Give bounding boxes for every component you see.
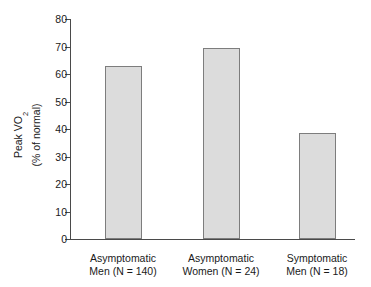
category-label-line1: Asymptomatic — [182, 252, 259, 265]
y-axis-label: Peak VO2 (% of normal) — [14, 70, 40, 200]
y-axis-label-line1: Peak VO2 — [12, 112, 29, 158]
y-tick-label: 10 — [55, 206, 67, 217]
category-label-line1: Symptomatic — [286, 252, 348, 265]
bar — [299, 133, 336, 239]
y-axis-label-subscript: 2 — [21, 112, 30, 116]
y-tick-label: 20 — [55, 179, 67, 190]
x-axis-line — [70, 239, 355, 240]
plot-area: 01020304050607080 — [70, 19, 355, 239]
bar-chart-figure: Peak VO2 (% of normal) 01020304050607080… — [0, 0, 371, 287]
bar — [203, 48, 240, 239]
x-axis-category-label: SymptomaticMen (N = 18) — [286, 252, 348, 278]
y-tick-label: 50 — [55, 96, 67, 107]
category-label-line2: Men (N = 18) — [286, 265, 348, 278]
y-tick-label: 60 — [55, 69, 67, 80]
category-label-line2: Women (N = 24) — [182, 265, 259, 278]
x-axis-category-label: AsymptomaticMen (N = 140) — [89, 252, 156, 278]
bar — [105, 66, 142, 239]
y-tick-label: 80 — [55, 14, 67, 25]
y-axis-label-line1-text: Peak VO — [12, 116, 24, 158]
x-axis-category-label: AsymptomaticWomen (N = 24) — [182, 252, 259, 278]
y-tick-label: 40 — [55, 124, 67, 135]
y-axis-line — [70, 19, 71, 239]
y-tick-label: 0 — [61, 234, 67, 245]
category-label-line2: Men (N = 140) — [89, 265, 156, 278]
y-tick-label: 30 — [55, 151, 67, 162]
y-axis-label-line2: (% of normal) — [30, 104, 42, 167]
y-tick-label: 70 — [55, 41, 67, 52]
y-axis-label-lines: Peak VO2 (% of normal) — [12, 104, 41, 167]
category-label-line1: Asymptomatic — [89, 252, 156, 265]
